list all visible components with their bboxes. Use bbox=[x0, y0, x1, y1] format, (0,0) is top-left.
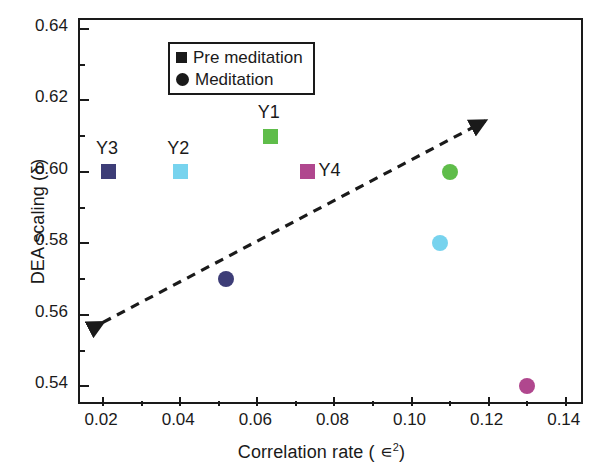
x-tick-label: 0.06 bbox=[225, 410, 285, 430]
x-tick-major bbox=[411, 397, 413, 406]
y-axis-title: DEA scaling (δ) bbox=[28, 72, 49, 372]
legend: Pre meditation Meditation bbox=[168, 42, 315, 95]
x-tick-major bbox=[179, 397, 181, 406]
y-tick-minor bbox=[80, 278, 85, 280]
data-point-square bbox=[263, 129, 278, 144]
x-tick-label: 0.14 bbox=[534, 410, 594, 430]
y-tick-label: 0.60 bbox=[6, 159, 68, 179]
y-tick-label: 0.64 bbox=[6, 16, 68, 36]
x-tick-minor bbox=[372, 401, 374, 406]
x-tick-label: 0.12 bbox=[457, 410, 517, 430]
x-axis-title-base: Correlation rate ( ∊ bbox=[238, 442, 393, 462]
x-tick-minor bbox=[141, 401, 143, 406]
x-axis-title: Correlation rate ( ∊2) bbox=[0, 441, 603, 463]
y-tick-label: 0.58 bbox=[6, 230, 68, 250]
scatter-plot-figure: DEA scaling (δ) Correlation rate ( ∊2) 0… bbox=[0, 0, 603, 475]
plot-area: Y3Y2Y1Y4 bbox=[80, 20, 581, 402]
data-point-label: Y4 bbox=[318, 160, 340, 181]
y-tick-minor bbox=[80, 135, 85, 137]
legend-label-meditation: Meditation bbox=[195, 71, 273, 88]
y-tick-major bbox=[80, 171, 89, 173]
y-tick-major bbox=[80, 242, 89, 244]
y-tick-label: 0.56 bbox=[6, 302, 68, 322]
data-point-circle bbox=[442, 164, 458, 180]
y-tick-major bbox=[80, 28, 89, 30]
y-tick-major bbox=[80, 99, 89, 101]
data-point-circle bbox=[218, 271, 234, 287]
x-tick-minor bbox=[295, 401, 297, 406]
trendline bbox=[80, 20, 581, 402]
x-tick-major bbox=[256, 397, 258, 406]
x-axis-title-close: ) bbox=[399, 442, 405, 462]
x-tick-major bbox=[333, 397, 335, 406]
legend-circle-marker-icon bbox=[176, 73, 189, 86]
x-tick-major bbox=[565, 397, 567, 406]
x-tick-label: 0.10 bbox=[380, 410, 440, 430]
data-point-label: Y2 bbox=[167, 138, 189, 159]
x-tick-label: 0.08 bbox=[302, 410, 362, 430]
legend-label-pre-meditation: Pre meditation bbox=[193, 49, 303, 66]
data-point-square bbox=[173, 164, 188, 179]
legend-item-pre-meditation: Pre meditation bbox=[176, 46, 303, 68]
data-point-circle bbox=[432, 235, 448, 251]
x-tick-minor bbox=[449, 401, 451, 406]
y-tick-label: 0.62 bbox=[6, 87, 68, 107]
y-tick-minor bbox=[80, 64, 85, 66]
data-point-circle bbox=[519, 378, 535, 394]
y-tick-major bbox=[80, 385, 89, 387]
data-point-square bbox=[101, 164, 116, 179]
data-point-square bbox=[300, 164, 315, 179]
x-tick-label: 0.02 bbox=[71, 410, 131, 430]
x-tick-major bbox=[102, 397, 104, 406]
x-tick-minor bbox=[526, 401, 528, 406]
y-tick-label: 0.54 bbox=[6, 373, 68, 393]
x-tick-minor bbox=[218, 401, 220, 406]
x-tick-major bbox=[488, 397, 490, 406]
y-tick-minor bbox=[80, 207, 85, 209]
plot-frame: Y3Y2Y1Y4 Pre meditation Meditation bbox=[78, 18, 583, 404]
legend-square-marker-icon bbox=[176, 52, 187, 63]
y-tick-minor bbox=[80, 350, 85, 352]
x-tick-label: 0.04 bbox=[148, 410, 208, 430]
data-point-label: Y3 bbox=[96, 138, 118, 159]
data-point-label: Y1 bbox=[258, 102, 280, 123]
y-tick-major bbox=[80, 314, 89, 316]
legend-item-meditation: Meditation bbox=[176, 68, 303, 90]
